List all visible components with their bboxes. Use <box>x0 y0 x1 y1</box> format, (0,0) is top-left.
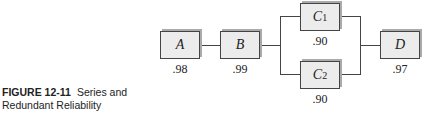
connector-to-c1 <box>280 16 300 17</box>
component-b-label: B <box>236 37 245 53</box>
component-a: A <box>160 31 200 59</box>
reliability-c2: .90 <box>300 92 340 107</box>
component-c1: C1 <box>300 3 340 31</box>
caption-line2: Redundant Reliability <box>2 99 101 111</box>
reliability-c1: .90 <box>300 34 340 49</box>
component-a-label: A <box>176 37 185 53</box>
figure-caption: FIGURE 12-11Series and Redundant Reliabi… <box>2 86 127 112</box>
connector-from-c1 <box>340 16 360 17</box>
connector-b-split <box>260 45 280 46</box>
connector-from-c2 <box>340 74 360 75</box>
split-vertical-left <box>280 16 281 75</box>
component-c1-sub: 1 <box>322 12 327 23</box>
reliability-d: .97 <box>380 62 420 77</box>
component-c2-label: C <box>313 67 322 83</box>
component-c2: C2 <box>300 61 340 89</box>
reliability-diagram: FIGURE 12-11Series and Redundant Reliabi… <box>0 0 447 117</box>
component-d-label: D <box>395 37 405 53</box>
connector-to-c2 <box>280 74 300 75</box>
reliability-b: .99 <box>220 62 260 77</box>
component-b: B <box>220 31 260 59</box>
reliability-a: .98 <box>160 62 200 77</box>
component-d: D <box>380 31 420 59</box>
figure-label: FIGURE 12-11 <box>2 86 71 98</box>
connector-a-b <box>200 45 220 46</box>
caption-line1: Series and <box>77 86 127 98</box>
connector-to-d <box>360 45 380 46</box>
component-c1-label: C <box>313 9 322 25</box>
component-c2-sub: 2 <box>322 70 327 81</box>
